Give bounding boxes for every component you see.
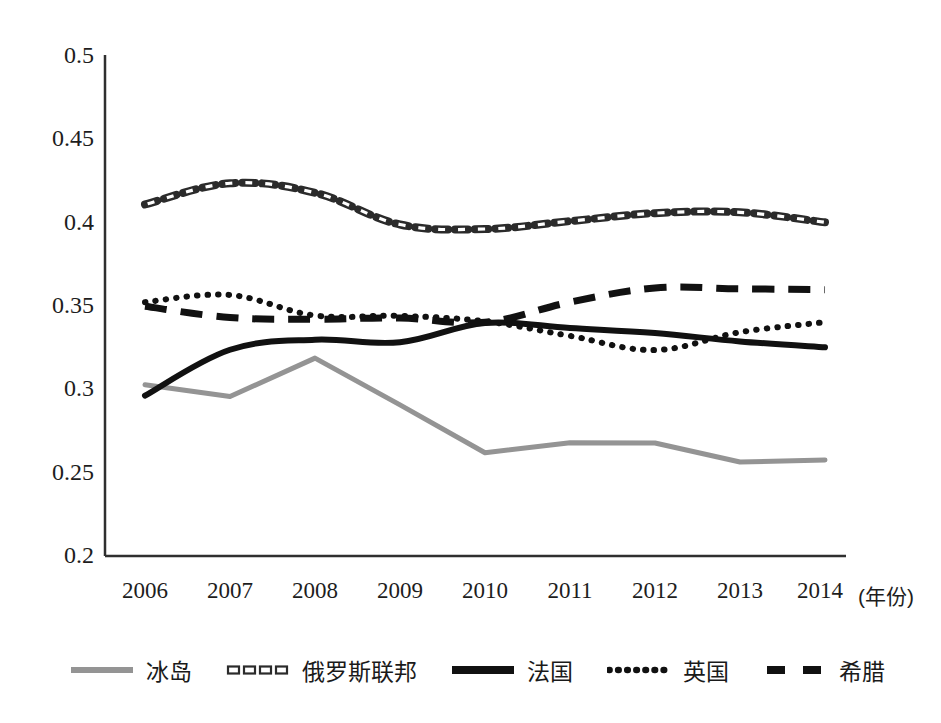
x-tick-label-2007: 2007: [185, 578, 275, 604]
series-line-1: [145, 183, 825, 230]
legend-label-greece: 希腊: [839, 653, 885, 687]
legend-label-united-kingdom: 英国: [683, 653, 729, 687]
chart-figure: 0.5 0.45 0.4 0.35 0.3 0.25 0.2 2006 2007…: [0, 0, 941, 723]
series-line-0: [145, 358, 825, 462]
y-tick-label-3: 0.35: [28, 292, 94, 319]
y-tick-label-6: 0.2: [38, 542, 94, 569]
series-line-1-inner: [145, 183, 825, 230]
legend-item-united-kingdom[interactable]: 英国: [607, 650, 763, 690]
legend-label-france: 法国: [527, 653, 573, 687]
chart-legend: 冰岛 俄罗斯联邦 法国 英国 希腊: [70, 650, 890, 690]
x-tick-label-2012: 2012: [610, 578, 700, 604]
x-tick-label-2014: 2014: [775, 578, 865, 604]
legend-swatch-russian-federation: [226, 659, 290, 681]
y-tick-label-4: 0.3: [38, 375, 94, 402]
x-tick-label-2011: 2011: [525, 578, 615, 604]
legend-swatch-france: [451, 659, 515, 681]
series-line-4: [145, 287, 825, 323]
legend-label-iceland: 冰岛: [146, 653, 192, 687]
x-tick-label-2009: 2009: [355, 578, 445, 604]
x-tick-label-2010: 2010: [440, 578, 530, 604]
legend-item-france[interactable]: 法国: [451, 650, 607, 690]
legend-item-russian-federation[interactable]: 俄罗斯联邦: [226, 650, 451, 690]
line-chart-plot: [0, 0, 941, 723]
legend-swatch-greece: [763, 659, 827, 681]
legend-label-russian-federation: 俄罗斯联邦: [302, 653, 417, 687]
x-axis-title: (年份): [858, 580, 914, 610]
x-tick-label-2006: 2006: [100, 578, 190, 604]
y-tick-label-1: 0.45: [28, 125, 94, 152]
legend-item-iceland[interactable]: 冰岛: [70, 650, 226, 690]
legend-swatch-united-kingdom: [607, 659, 671, 681]
axis-lines: [105, 55, 846, 556]
x-tick-label-2008: 2008: [270, 578, 360, 604]
y-tick-label-2: 0.4: [38, 209, 94, 236]
y-tick-label-5: 0.25: [28, 459, 94, 486]
legend-swatch-iceland: [70, 659, 134, 681]
y-tick-label-0: 0.5: [38, 42, 94, 69]
legend-item-greece[interactable]: 希腊: [763, 650, 885, 690]
series-layer: [145, 183, 825, 462]
x-tick-label-2013: 2013: [695, 578, 785, 604]
